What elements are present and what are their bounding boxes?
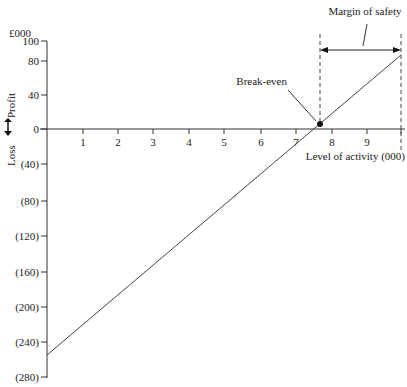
- x-tick-label: 8: [329, 136, 335, 148]
- x-tick-label: 9: [364, 136, 370, 148]
- y-tick-label: (40): [21, 158, 40, 171]
- x-tick-label: 4: [186, 136, 192, 148]
- x-ticks: [83, 129, 401, 134]
- y-tick-label: 100: [23, 35, 40, 47]
- x-tick-label: 5: [221, 136, 227, 148]
- y-tick-label: (160): [15, 266, 39, 279]
- margin-leader-line: [363, 24, 367, 46]
- break-even-label: Break-even: [236, 75, 287, 87]
- x-tick-label: 1: [80, 136, 86, 148]
- break-even-chart: £000 100 80 40 0 (40) (80) (120) (160) (…: [0, 0, 407, 387]
- y-tick-label: (280): [15, 371, 39, 384]
- y-tick-label: (240): [15, 336, 39, 349]
- profit-loss-arrow-icon: [4, 118, 12, 136]
- x-axis-label: Level of activity (000): [306, 150, 406, 163]
- y-tick-label: (120): [15, 230, 39, 243]
- y-tick-label: (80): [21, 195, 40, 208]
- y-ticks: [41, 41, 47, 377]
- x-tick-label: 3: [150, 136, 156, 148]
- profit-line: [47, 55, 401, 355]
- x-tick-label: 6: [258, 136, 264, 148]
- break-even-leader-line: [288, 90, 316, 121]
- arrow-right-icon: [393, 47, 401, 53]
- x-tick-label: 2: [115, 136, 121, 148]
- y-tick-label: (200): [15, 301, 39, 314]
- profit-label: Profit: [5, 93, 17, 118]
- margin-of-safety-label: Margin of safety: [328, 5, 402, 17]
- y-tick-label: 80: [28, 55, 40, 67]
- y-tick-label: 0: [34, 123, 40, 135]
- loss-label: Loss: [5, 145, 17, 166]
- y-tick-label: 40: [28, 89, 40, 101]
- break-even-point: [317, 121, 323, 127]
- arrow-left-icon: [320, 47, 328, 53]
